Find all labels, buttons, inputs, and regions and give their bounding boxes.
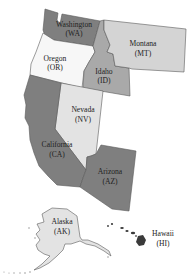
label-alaska-name: Alaska	[51, 217, 73, 226]
western-us-map: Washington (WA) Oregon (OR) Idaho (ID) M…	[0, 0, 193, 279]
label-oregon-abbr: (OR)	[47, 63, 63, 72]
label-arizona-abbr: (AZ)	[102, 177, 118, 186]
label-washington-name: Washington	[56, 20, 92, 29]
label-alaska-abbr: (AK)	[54, 227, 70, 236]
state-hawaii[interactable]: Hawaii (HI)	[107, 223, 174, 248]
label-idaho-name: Idaho	[95, 67, 112, 76]
label-nevada-abbr: (NV)	[75, 115, 91, 124]
label-oregon-name: Oregon	[44, 54, 67, 63]
label-washington-abbr: (WA)	[66, 29, 83, 38]
label-montana-name: Montana	[130, 39, 158, 48]
label-idaho-abbr: (ID)	[97, 76, 111, 85]
label-arizona-name: Arizona	[98, 167, 123, 176]
state-alaska[interactable]: Alaska (AK)	[3, 208, 111, 274]
label-montana-abbr: (MT)	[135, 49, 152, 58]
state-montana[interactable]: Montana (MT)	[104, 20, 186, 72]
label-california-abbr: (CA)	[49, 150, 65, 159]
label-hawaii-abbr: (HI)	[156, 239, 170, 248]
label-nevada-name: Nevada	[71, 105, 95, 114]
label-california-name: California	[42, 140, 73, 149]
label-hawaii-name: Hawaii	[152, 229, 174, 238]
